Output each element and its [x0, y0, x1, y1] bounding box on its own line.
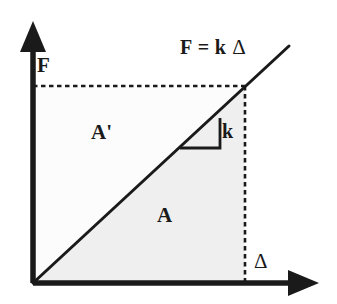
equation-term-delta: Δ — [232, 35, 246, 59]
force-deflection-figure: F Δ F=kΔ A' A k — [0, 0, 337, 304]
deflection-axis-arrowhead — [288, 270, 319, 296]
region-a-label: A — [157, 205, 172, 226]
force-axis-arrowhead — [20, 21, 46, 52]
equation-term-equals: = — [198, 36, 210, 58]
force-axis-label: F — [37, 55, 50, 76]
region-a-prime-label: A' — [91, 122, 112, 143]
equation-term-k: k — [215, 36, 227, 58]
equation-term-f: F — [180, 36, 193, 58]
equation-label: F=kΔ — [180, 37, 246, 58]
figure-canvas — [0, 0, 337, 304]
slope-label: k — [222, 121, 233, 141]
deflection-axis-label: Δ — [254, 251, 268, 272]
